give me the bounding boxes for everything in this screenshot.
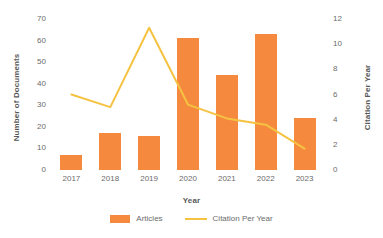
y-axis-left-tick-label: 20	[14, 122, 50, 131]
x-axis-tick-label-2022: 2022	[246, 174, 285, 183]
y-axis-left-tick-label: 50	[14, 57, 50, 66]
x-axis-tick-label-2018: 2018	[91, 174, 130, 183]
x-axis-tick-label-2023: 2023	[285, 174, 324, 183]
x-axis-title: Year	[0, 196, 383, 205]
y-axis-right-tick-label: 12	[329, 14, 363, 23]
legend-item-articles[interactable]: Articles	[110, 214, 162, 223]
y-axis-left-tick-label: 10	[14, 143, 50, 152]
y-axis-right-tick-label: 8	[329, 64, 363, 73]
y-axis-right-tick-label: 6	[329, 90, 363, 99]
y-axis-right-title: Citation Per Year	[363, 38, 372, 158]
citation-chart: Number of Documents Citation Per Year Ye…	[0, 0, 383, 238]
legend-item-label: Articles	[136, 214, 162, 223]
y-axis-left-tick-label: 60	[14, 36, 50, 45]
bar-swatch-icon	[110, 215, 130, 223]
y-axis-left-tick-label: 0	[14, 165, 50, 174]
y-axis-left-tick-label: 30	[14, 100, 50, 109]
y-axis-right-ticks: 121086420	[329, 0, 363, 238]
chart-legend: Articles Citation Per Year	[0, 214, 383, 223]
citation-line-path	[71, 28, 304, 149]
legend-item-citation-per-year[interactable]: Citation Per Year	[185, 214, 273, 223]
y-axis-left-ticks: 706050403020100	[14, 0, 50, 238]
legend-item-label: Citation Per Year	[213, 214, 273, 223]
x-axis-tick-label-2019: 2019	[130, 174, 169, 183]
y-axis-left-tick-label: 40	[14, 79, 50, 88]
plot-area	[52, 19, 324, 170]
line-series-citation-per-year	[52, 19, 324, 170]
line-swatch-icon	[185, 215, 207, 223]
y-axis-right-tick-label: 2	[329, 140, 363, 149]
x-axis-tick-label-2017: 2017	[52, 174, 91, 183]
y-axis-right-tick-label: 4	[329, 115, 363, 124]
y-axis-right-tick-label: 0	[329, 165, 363, 174]
y-axis-left-tick-label: 70	[14, 14, 50, 23]
x-axis-ticks: 2017201820192020202120222023	[52, 174, 324, 190]
x-axis-tick-label-2020: 2020	[169, 174, 208, 183]
y-axis-right-tick-label: 10	[329, 39, 363, 48]
x-axis-tick-label-2021: 2021	[207, 174, 246, 183]
